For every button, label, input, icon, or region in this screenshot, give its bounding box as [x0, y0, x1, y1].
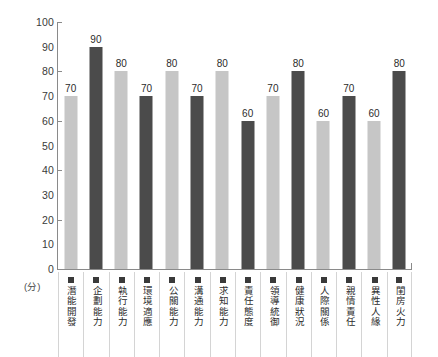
category-label-cell: 企劃能力 — [83, 272, 108, 357]
square-marker-icon — [245, 277, 251, 283]
category-label-cell: 潛能開發 — [58, 272, 83, 357]
y-axis-tick: 0 — [14, 264, 54, 274]
y-axis-tick: 90 — [14, 42, 54, 52]
bar[interactable] — [115, 71, 128, 269]
y-axis-tick-label: 50 — [22, 141, 54, 151]
bar-value-label: 80 — [166, 59, 177, 69]
bar-value-label: 80 — [217, 59, 228, 69]
category-label-cell: 人際關係 — [311, 272, 336, 357]
bar-slot: 70 — [58, 22, 83, 269]
bar[interactable] — [241, 121, 254, 269]
bar-value-label: 80 — [293, 59, 304, 69]
bar[interactable] — [368, 121, 381, 269]
bar[interactable] — [89, 47, 102, 269]
y-axis-tick-label: 70 — [22, 91, 54, 101]
bar-chart: 1009080706050403020100 (分) 7090807080708… — [0, 0, 438, 357]
category-label-cell: 領導統御 — [260, 272, 285, 357]
category-label-text: 企劃能力 — [91, 286, 102, 328]
bar[interactable] — [292, 71, 305, 269]
y-axis-tick-label: 40 — [22, 165, 54, 175]
y-axis-tick-label: 10 — [22, 239, 54, 249]
square-marker-icon — [195, 277, 201, 283]
y-axis-tick: 30 — [14, 190, 54, 200]
category-label-cell: 溝通能力 — [184, 272, 209, 357]
bar[interactable] — [342, 96, 355, 269]
bar-slot: 70 — [336, 22, 361, 269]
bar-slot: 80 — [109, 22, 134, 269]
category-label-text: 異性人緣 — [369, 286, 380, 328]
category-label-cell: 健康狀況 — [286, 272, 311, 357]
bar-value-label: 70 — [343, 84, 354, 94]
category-label-text: 公關能力 — [167, 286, 178, 328]
bar-slot: 70 — [260, 22, 285, 269]
y-axis-tick-label: 100 — [22, 17, 54, 27]
square-marker-icon — [372, 277, 378, 283]
square-marker-icon — [93, 277, 99, 283]
y-axis-unit-label: (分) — [24, 279, 40, 293]
y-axis-tick: 10 — [14, 239, 54, 249]
y-axis-tick-label: 30 — [22, 190, 54, 200]
category-label-text: 閨房火力 — [394, 286, 405, 328]
y-axis-tick: 40 — [14, 165, 54, 175]
y-axis-tick: 50 — [14, 141, 54, 151]
category-label-text: 執行能力 — [116, 286, 127, 328]
category-label-cell: 求知能力 — [210, 272, 235, 357]
bar-slot: 80 — [286, 22, 311, 269]
bar-value-label: 70 — [141, 84, 152, 94]
y-axis-tick-label: 60 — [22, 116, 54, 126]
category-label-cell: 執行能力 — [109, 272, 134, 357]
category-label-text: 溝通能力 — [192, 286, 203, 328]
bar[interactable] — [216, 71, 229, 269]
square-marker-icon — [119, 277, 125, 283]
bar-slot: 80 — [210, 22, 235, 269]
bar-slot: 60 — [235, 22, 260, 269]
bar-value-label: 60 — [242, 109, 253, 119]
y-axis-tick-label: 20 — [22, 215, 54, 225]
category-label-cell: 環境適應 — [134, 272, 159, 357]
square-marker-icon — [68, 277, 74, 283]
plot-area: 7090807080708060708060706080 — [58, 22, 412, 269]
square-marker-icon — [169, 277, 175, 283]
y-axis-tick-mark — [57, 269, 62, 270]
category-label-text: 親情責任 — [344, 286, 355, 328]
category-label-text: 領導統御 — [268, 286, 279, 328]
bar[interactable] — [266, 96, 279, 269]
bar[interactable] — [393, 71, 406, 269]
y-axis-tick: 100 — [14, 17, 54, 27]
bar-value-label: 80 — [116, 59, 127, 69]
bar[interactable] — [140, 96, 153, 269]
square-marker-icon — [321, 277, 327, 283]
square-marker-icon — [346, 277, 352, 283]
y-axis-tick: 20 — [14, 215, 54, 225]
square-marker-icon — [296, 277, 302, 283]
category-label-text: 責任態度 — [243, 286, 254, 328]
category-label-text: 求知能力 — [218, 286, 229, 328]
bar-slot: 80 — [387, 22, 412, 269]
bar[interactable] — [191, 96, 204, 269]
y-axis-tick: 80 — [14, 66, 54, 76]
x-axis-line — [57, 269, 412, 270]
y-axis-tick-label: 0 — [22, 264, 54, 274]
category-label-cell: 責任態度 — [235, 272, 260, 357]
bar-slot: 90 — [83, 22, 108, 269]
bar[interactable] — [165, 71, 178, 269]
bar-value-label: 60 — [318, 109, 329, 119]
category-label-text: 環境適應 — [142, 286, 153, 328]
square-marker-icon — [270, 277, 276, 283]
bar-value-label: 70 — [65, 84, 76, 94]
bar-value-label: 60 — [369, 109, 380, 119]
square-marker-icon — [144, 277, 150, 283]
category-label-cell: 公關能力 — [159, 272, 184, 357]
category-label-text: 人際關係 — [319, 286, 330, 328]
y-axis-tick-label: 90 — [22, 42, 54, 52]
bar-value-label: 90 — [90, 35, 101, 45]
square-marker-icon — [220, 277, 226, 283]
category-label-text: 健康狀況 — [293, 286, 304, 328]
category-label-text: 潛能開發 — [66, 286, 77, 328]
x-axis-category-labels: 潛能開發企劃能力執行能力環境適應公關能力溝通能力求知能力責任態度領導統御健康狀況… — [58, 272, 412, 357]
bar-slot: 70 — [134, 22, 159, 269]
bar-value-label: 70 — [192, 84, 203, 94]
bar[interactable] — [64, 96, 77, 269]
bar[interactable] — [317, 121, 330, 269]
category-label-cell: 異性人緣 — [361, 272, 386, 357]
